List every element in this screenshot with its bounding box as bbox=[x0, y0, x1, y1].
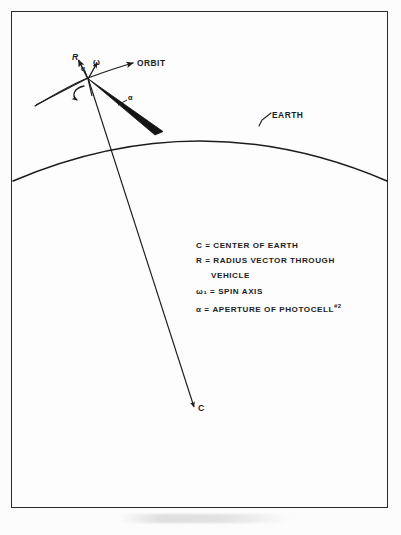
orbit-label: ORBIT bbox=[137, 58, 166, 68]
legend-line: α = APERTURE OF PHOTOCELL#2 bbox=[196, 299, 381, 317]
aperture-wedge bbox=[89, 79, 164, 135]
spin-axis-label: ω bbox=[93, 58, 100, 67]
legend-line: C = CENTER OF EARTH bbox=[196, 238, 381, 253]
orbit-tangent-tail bbox=[36, 78, 88, 105]
figure-page: ORBIT EARTH C R ω α α C = CENTER OF EART… bbox=[0, 0, 401, 535]
legend-text: ω₁ = SPIN AXIS bbox=[196, 287, 263, 296]
earth-label: EARTH bbox=[272, 110, 303, 120]
center-of-earth-label: C bbox=[198, 403, 205, 413]
aperture-angle-wedge-label: α bbox=[128, 93, 133, 102]
earth-arc bbox=[13, 141, 387, 181]
legend-line: ω₁ = SPIN AXIS bbox=[196, 284, 381, 299]
legend-text: VEHICLE bbox=[211, 271, 250, 280]
radius-vector-label: R bbox=[72, 52, 79, 62]
legend-line: R = RADIUS VECTOR THROUGH bbox=[196, 253, 381, 268]
legend-line: VEHICLE bbox=[196, 268, 381, 283]
scan-smudge bbox=[120, 514, 290, 523]
legend-text: R = RADIUS VECTOR THROUGH bbox=[196, 256, 335, 265]
radius-line bbox=[88, 78, 194, 407]
rotation-curl-icon bbox=[74, 86, 84, 100]
photocell-number: #2 bbox=[334, 303, 342, 309]
legend-text: α = APERTURE OF PHOTOCELL bbox=[196, 305, 334, 314]
aperture-angle-vertex-label: α bbox=[81, 65, 86, 72]
earth-leader-line bbox=[259, 113, 271, 126]
legend: C = CENTER OF EARTH R = RADIUS VECTOR TH… bbox=[196, 238, 381, 317]
legend-text: C = CENTER OF EARTH bbox=[196, 241, 298, 250]
